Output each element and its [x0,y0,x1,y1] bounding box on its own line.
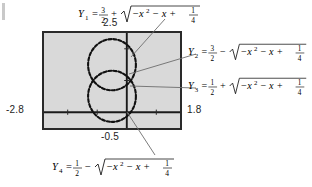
equation-label-y1: Y 1 = 3 2 + −x 2 − x + 1 4 [78,3,208,25]
equation-label-y4: Y 4 = 1 2 − −x 2 − x + 1 4 [52,156,182,178]
eq-y2-frac-num: 1 [298,45,302,53]
equation-y2-glyphs: Y 2 = 3 2 − −x 2 − x + 1 4 [188,41,312,63]
eq-y3-equals: = [202,80,208,91]
eq-y4-frac-num: 1 [165,159,169,168]
eq-y2-const-num: 3 [210,45,214,53]
eq-y2-radical-glyph [230,44,240,60]
eq-y4-name: Y [52,161,59,172]
eq-y2-radicand-exp: 2 [254,45,258,52]
plot-canvas [44,33,180,128]
eq-y4-radicand-mid: − x + [126,161,150,172]
eq-y2-sub: 2 [195,52,199,59]
eq-y3-radicand-mid: − x + [260,80,283,91]
eq-y3-const-num: 1 [210,79,214,87]
eq-y4-sign: − [85,161,91,172]
eq-y4-sub: 4 [59,167,63,175]
eq-y1-radical-glyph [121,6,131,22]
page-edge-mark [2,3,5,20]
eq-y2-radicand-mid: − x + [260,46,283,57]
eq-y2-const-den: 2 [210,55,214,63]
eq-y2-frac-den: 4 [298,55,302,63]
eq-y4-frac-den: 4 [165,169,169,178]
ymin-label: -0.5 [101,131,119,142]
curve-upper-circle [88,39,136,90]
xmax-label: 1.8 [187,104,202,115]
eq-y1-radicand-mid: − x + [152,8,176,19]
equation-label-y2: Y 2 = 3 2 − −x 2 − x + 1 4 [188,41,312,63]
eq-y1-radicand-exp: 2 [146,7,150,15]
equation-y1-glyphs: Y 1 = 3 2 + −x 2 − x + 1 4 [78,3,208,25]
eq-y2-radicand-lead: −x [240,46,252,57]
eq-y4-const-den: 2 [75,169,79,178]
xmin-label: -2.8 [6,104,24,115]
eq-y1-sub: 1 [85,14,89,22]
eq-y1-const-den: 2 [101,16,105,25]
eq-y3-const-den: 2 [210,89,214,97]
curve-lower-circle [88,71,136,122]
eq-y3-sign: + [220,80,226,91]
eq-y1-frac-num: 1 [191,6,195,15]
eq-y3-radical-glyph [230,78,240,94]
eq-y1-const-num: 3 [101,6,105,15]
eq-y3-radicand-exp: 2 [254,79,258,86]
eq-y4-radicand-lead: −x [106,161,118,172]
eq-y2-equals: = [202,46,208,57]
calculator-viewing-window [42,31,182,130]
equation-label-y3: Y 3 = 1 2 + −x 2 − x + 1 4 [188,75,312,97]
eq-y4-equals: = [66,161,72,172]
eq-y3-sub: 3 [195,86,199,93]
equation-y3-glyphs: Y 3 = 1 2 + −x 2 − x + 1 4 [188,75,312,97]
eq-y4-radical-glyph [95,159,105,175]
eq-y1-name: Y [78,8,85,19]
eq-y4-const-num: 1 [75,159,79,168]
eq-y3-frac-den: 4 [298,89,302,97]
eq-y1-frac-den: 4 [191,16,195,25]
eq-y3-frac-num: 1 [298,79,302,87]
equation-y4-glyphs: Y 4 = 1 2 − −x 2 − x + 1 4 [52,156,182,178]
eq-y1-radicand-lead: −x [132,8,144,19]
eq-y1-sign: + [111,8,117,19]
eq-y4-radicand-exp: 2 [120,160,124,168]
eq-y1-equals: = [92,8,98,19]
figure-root: 2.5 -0.5 -2.8 1.8 Y 1 = 3 2 + −x 2 − x +… [0,0,312,187]
eq-y3-radicand-lead: −x [240,80,252,91]
eq-y2-sign: − [220,46,226,57]
